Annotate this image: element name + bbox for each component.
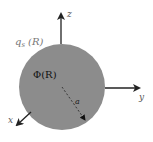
x-axis-label: x xyxy=(8,115,13,125)
radius-label: a xyxy=(75,97,80,106)
surface-charge-label: qs(R) xyxy=(15,36,43,49)
x-axis xyxy=(17,112,31,125)
sphere-diagram: z y x qs(R) Φ(R) a xyxy=(0,0,153,142)
surface-charge-subscript: s xyxy=(21,41,25,49)
potential-label: Φ(R) xyxy=(33,69,57,80)
surface-charge-argument: (R) xyxy=(28,36,43,47)
z-axis-label: z xyxy=(66,9,72,19)
y-axis-label: y xyxy=(138,92,145,102)
